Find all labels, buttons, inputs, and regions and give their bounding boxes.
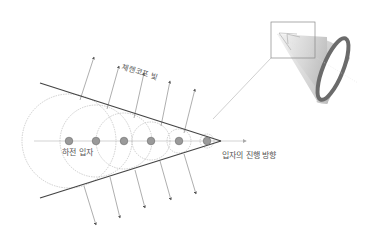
particle-direction-label: 입자의 진행 방향 [222, 149, 276, 160]
diagram-canvas [0, 0, 384, 242]
charged-particle-label: 하전 입자 [62, 146, 93, 157]
cherenkov-rays-down [84, 154, 196, 225]
cone-3d-illustration [271, 22, 358, 104]
inset-connector [213, 58, 271, 119]
cherenkov-diagram: 체렌코프 빛 하전 입자 입자의 진행 방향 [0, 0, 384, 242]
